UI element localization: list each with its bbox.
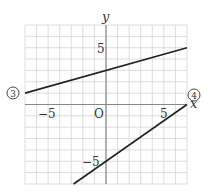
tick-x-5: 5 (160, 107, 168, 121)
svg-text:3: 3 (10, 89, 16, 99)
tick-y-5: 5 (97, 42, 105, 56)
line-4 (74, 105, 187, 185)
tick-y-neg5: −5 (82, 155, 100, 169)
svg-text:4: 4 (191, 91, 197, 101)
y-axis-label: y (101, 9, 110, 24)
line-4-marker: 4 (188, 89, 200, 101)
line-3-marker: 3 (7, 87, 19, 99)
origin-label: O (94, 107, 104, 121)
coordinate-plane: y x O −5 5 5 −5 3 4 (0, 0, 214, 195)
tick-x-neg5: −5 (38, 107, 56, 121)
